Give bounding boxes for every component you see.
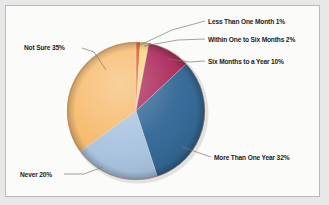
leader-line-less-than-one-month bbox=[138, 21, 205, 46]
pie-label-less-than-one-month: Less Than One Month 1% bbox=[208, 19, 285, 26]
pie-label-not-sure: Not Sure 35% bbox=[24, 45, 65, 52]
pie-label-more-than-one-year: More Than One Year 32% bbox=[214, 155, 289, 162]
pie-label-within-one-to-six-months: Within One to Six Months 2% bbox=[208, 37, 295, 44]
pie-label-six-months-to-a-year: Six Months to a Year 10% bbox=[208, 59, 284, 66]
pie-label-never: Never 20% bbox=[20, 172, 52, 179]
chart-screenshot: Less Than One Month 1% Within One to Six… bbox=[0, 0, 329, 205]
